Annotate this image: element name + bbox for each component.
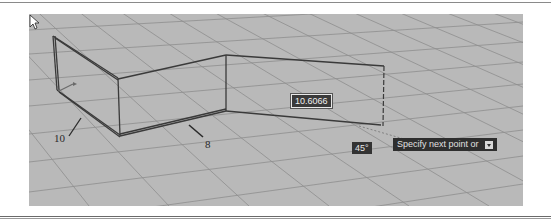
angle-input[interactable]: 45° <box>352 142 372 154</box>
top-divider <box>0 2 551 3</box>
perspective-grid <box>29 14 523 206</box>
dimension-label-8: 8 <box>205 138 211 150</box>
dim-leader-10 <box>69 118 81 136</box>
command-prompt-tooltip: Specify next point or <box>393 138 497 151</box>
distance-input[interactable]: 10.6066 <box>291 94 332 108</box>
rubber-band-line <box>383 66 384 126</box>
prompt-text: Specify next point or <box>397 139 479 150</box>
dimension-label-10: 10 <box>54 132 65 144</box>
down-arrow-icon[interactable] <box>485 141 493 149</box>
polyline-wall <box>53 36 384 137</box>
drawing-viewport[interactable]: 10 8 10.6066 45° Specify next point or <box>29 14 523 206</box>
bottom-divider <box>0 216 551 219</box>
arrow-pointer-icon <box>29 14 41 30</box>
dim-leader-8 <box>189 125 203 137</box>
